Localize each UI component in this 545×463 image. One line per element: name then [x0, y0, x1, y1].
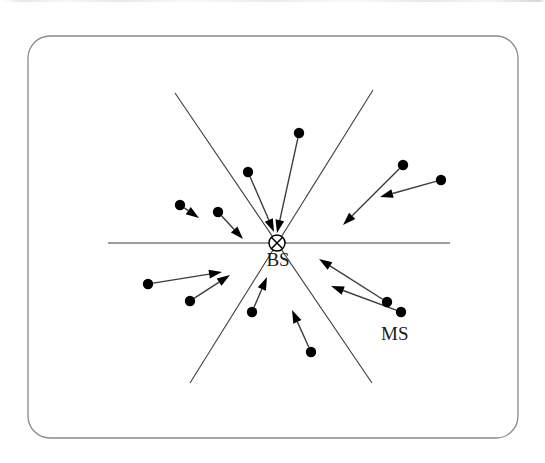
mobile-station-dot [175, 200, 185, 210]
mobile-station-dot [243, 167, 253, 177]
ms-link-arrowhead [258, 277, 267, 291]
ms-link-arrowhead [331, 286, 345, 295]
ms-link-shaft [194, 282, 219, 298]
ms-link-shaft [184, 208, 188, 211]
ms-link-shaft [250, 177, 269, 220]
ms-link-arrowhead [186, 207, 199, 218]
mobile-station-dot [294, 128, 304, 138]
mobile-station-dot [185, 296, 195, 306]
bs-label: BS [266, 249, 289, 270]
ms-label: MS [381, 323, 408, 344]
ms-link-shaft [297, 322, 308, 347]
ms-link-arrowhead [275, 219, 284, 233]
ms-link-shaft [254, 289, 262, 307]
mobile-station-dot [306, 347, 316, 357]
mobile-station-dot [436, 175, 446, 185]
ms-link-shaft [330, 266, 383, 299]
figure-root: BS MS [0, 0, 545, 463]
ms-link-arrowhead [265, 218, 274, 232]
ms-link-arrowhead [380, 189, 394, 197]
mobile-station-dot [398, 160, 408, 170]
mobile-station-dot [143, 279, 153, 289]
ms-link-shaft [393, 181, 436, 193]
ms-link-shaft [222, 216, 235, 230]
mobile-station-dot [382, 297, 392, 307]
ms-link-shaft [280, 138, 298, 220]
ms-link-shaft [153, 274, 209, 283]
cell-sector-diagram: BS MS [0, 0, 545, 463]
ms-link-arrowhead [217, 275, 230, 286]
ms-link-arrowhead [208, 270, 222, 279]
ms-link-shaft [352, 169, 399, 216]
mobile-station-dot [396, 307, 406, 317]
ms-link-arrowhead [292, 310, 301, 324]
mobile-station-dot [213, 207, 223, 217]
ms-link-arrowhead [319, 259, 332, 270]
mobile-station-dot [247, 307, 257, 317]
